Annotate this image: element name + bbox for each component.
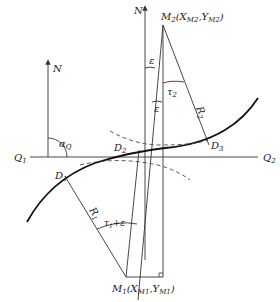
- label-m2: M2(XM2,YM2): [160, 11, 224, 24]
- label-tau2: τ2: [167, 86, 178, 99]
- label-epsilon-mid: ε: [154, 103, 159, 114]
- tau2-arc: [163, 81, 184, 83]
- label-alpha-q: αQ: [59, 138, 72, 151]
- m2-d2-line: [138, 25, 163, 300]
- r2-line: [163, 25, 209, 145]
- label-d2: D2: [113, 142, 127, 155]
- label-n-left: N: [52, 63, 63, 74]
- m1-upper-line: [126, 150, 139, 277]
- epsilon-top-arc: [145, 67, 155, 68]
- dashed-arc-upper: [110, 131, 208, 145]
- epsilon-mid-arc: [152, 101, 162, 102]
- label-epsilon-top: ε: [149, 55, 154, 66]
- label-m1: M1(XM1,YM1): [111, 283, 175, 296]
- right-angle-marker: [159, 273, 163, 277]
- label-n-center: N: [133, 5, 144, 16]
- label-q1: Q1: [14, 152, 27, 165]
- label-tau1-eps: τ1+ε: [104, 218, 125, 229]
- geometry-diagram: N N αQ Q1 Q2 D1 D2 D3 M2(XM2,YM2) M1(XM1…: [0, 0, 280, 302]
- label-d3: D3: [210, 140, 224, 153]
- main-curve: [27, 98, 258, 222]
- label-q2: Q2: [263, 152, 276, 165]
